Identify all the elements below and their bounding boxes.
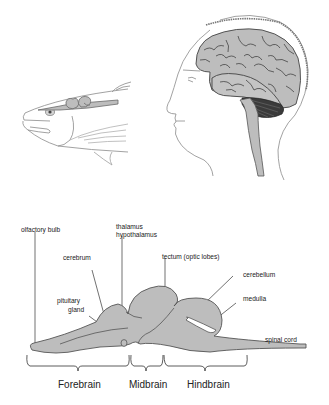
- region-label-hindbrain: Hindbrain: [187, 379, 230, 390]
- label-spinal-cord: spinal cord: [265, 336, 297, 344]
- label-pituitary: pituitary: [57, 297, 80, 305]
- figure-canvas: [0, 0, 329, 405]
- label-thalamus: thalamus: [116, 223, 143, 231]
- label-hypothalamus: hypothalamus: [116, 231, 157, 239]
- human-brain: [196, 29, 301, 176]
- region-label-forebrain: Forebrain: [58, 379, 101, 390]
- region-label-midbrain: Midbrain: [129, 379, 167, 390]
- label-medulla: medulla: [243, 295, 266, 303]
- label-cerebrum: cerebrum: [63, 254, 91, 262]
- pituitary-shape: [121, 340, 127, 347]
- label-pituitary-gland: gland: [68, 306, 84, 314]
- label-olfactory-bulb: olfactory bulb: [21, 226, 60, 234]
- label-tectum: tectum (optic lobes): [162, 253, 220, 261]
- region-braces: [27, 355, 247, 371]
- label-cerebellum: cerebellum: [243, 271, 275, 279]
- fish-illustration: [23, 82, 131, 165]
- fish-brain: [38, 96, 118, 110]
